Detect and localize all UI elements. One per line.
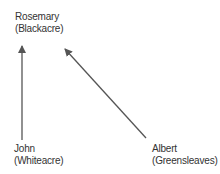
arrow-albert-to-rosemary — [65, 49, 146, 138]
node-rosemary-place: (Blackacre) — [15, 23, 63, 35]
node-albert: Albert (Greensleaves) — [152, 143, 218, 167]
node-john: John (Whiteacre) — [14, 143, 63, 167]
node-john-place: (Whiteacre) — [14, 155, 63, 167]
node-rosemary: Rosemary (Blackacre) — [15, 11, 63, 35]
node-john-name: John — [14, 143, 63, 155]
node-rosemary-name: Rosemary — [15, 11, 63, 23]
node-albert-place: (Greensleaves) — [152, 155, 218, 167]
node-albert-name: Albert — [152, 143, 218, 155]
